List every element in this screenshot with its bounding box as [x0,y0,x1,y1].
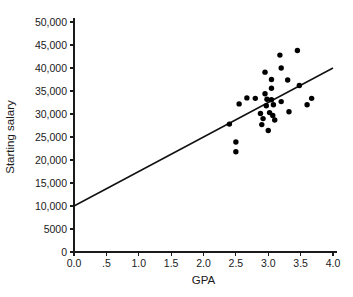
x-tick-label: 1.5 [164,257,179,269]
data-point [233,139,238,144]
y-axis-title: Starting salary [4,100,16,174]
data-series-0 [227,48,315,155]
data-point [236,101,241,106]
x-axis-title: GPA [192,274,216,286]
data-point [260,116,265,121]
data-point [262,91,267,96]
y-tick-label: 30,000 [35,108,67,120]
data-point [277,52,282,57]
data-point [295,48,300,53]
x-tick-label: 2.5 [229,257,244,269]
y-tick-label: 20,000 [35,154,67,166]
data-point [266,128,271,133]
y-tick-label: 15,000 [35,177,67,189]
y-tick-label: 25,000 [35,131,67,143]
x-tick-label: .5 [102,257,111,269]
y-tick-label: 45,000 [35,39,67,51]
data-point [297,83,302,88]
data-point [309,96,314,101]
data-point [264,103,269,108]
data-point [269,97,274,102]
y-tick-label: 10,000 [35,200,67,212]
data-point [244,95,249,100]
data-point [258,111,263,116]
scatter-plot-figure: 0500010,00015,00020,00025,00030,00035,00… [0,0,353,297]
data-point [270,113,275,118]
data-point [271,102,276,107]
data-point [269,86,274,91]
data-point [259,122,264,127]
data-point [285,77,290,82]
chart-canvas: 0500010,00015,00020,00025,00030,00035,00… [0,0,353,297]
x-tick-label: 3.0 [261,257,276,269]
data-point [279,99,284,104]
data-point [253,96,258,101]
x-tick-label: 3.5 [293,257,308,269]
data-point [262,69,267,74]
data-point [286,109,291,114]
regression-line [74,68,333,206]
data-point [304,102,309,107]
data-point [272,117,277,122]
data-point [227,121,232,126]
y-tick-label: 40,000 [35,62,67,74]
y-tick-label: 35,000 [35,85,67,97]
x-tick-label: 2.0 [196,257,211,269]
x-tick-label: 1.0 [131,257,146,269]
data-point [233,149,238,154]
x-tick-label: 4.0 [326,257,341,269]
y-tick-label: 0 [61,246,67,258]
data-point [269,77,274,82]
y-tick-label: 5000 [44,223,68,235]
data-point [279,65,284,70]
y-tick-label: 50,000 [35,16,67,28]
x-tick-label: 0.0 [67,257,82,269]
